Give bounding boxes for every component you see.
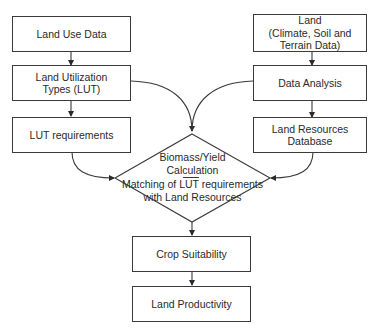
- box-land-resources-database: Land Resources Database: [253, 117, 367, 153]
- curve-database-to-diamond: [271, 152, 313, 178]
- box-label: Land Productivity: [151, 298, 232, 311]
- box-label: Crop Suitability: [156, 248, 227, 261]
- decision-line-1: Biomass/Yield: [115, 151, 270, 164]
- box-label: Types (LUT): [43, 83, 101, 96]
- box-label: Terrain Data): [280, 39, 341, 52]
- box-land: Land (Climate, Soil and Terrain Data): [253, 14, 367, 52]
- decision-line-4: with Land Resources: [115, 191, 270, 204]
- box-label: Database: [288, 135, 333, 148]
- box-label: (Climate, Soil and: [269, 27, 352, 40]
- box-land-productivity: Land Productivity: [132, 286, 251, 322]
- box-label: LUT requirements: [30, 129, 114, 142]
- curve-analysis-to-diamond: [192, 81, 253, 131]
- box-label: Land Resources: [272, 123, 348, 136]
- curve-requirements-to-diamond: [72, 152, 114, 178]
- box-crop-suitability: Crop Suitability: [132, 236, 251, 272]
- box-label: Land: [298, 14, 321, 27]
- decision-line-2: Calculation: [115, 164, 270, 177]
- box-label: Data Analysis: [278, 77, 342, 90]
- box-land-utilization-types: Land Utilization Types (LUT): [12, 65, 131, 101]
- box-land-use-data: Land Use Data: [12, 16, 131, 52]
- box-label: Land Use Data: [36, 28, 106, 41]
- decision-divider: [183, 177, 199, 178]
- decision-line-3: Matching of LUT requirements: [115, 178, 270, 191]
- curve-lut-to-diamond: [131, 81, 192, 131]
- box-data-analysis: Data Analysis: [253, 65, 367, 101]
- box-lut-requirements: LUT requirements: [12, 117, 131, 153]
- box-label: Land Utilization: [36, 71, 108, 84]
